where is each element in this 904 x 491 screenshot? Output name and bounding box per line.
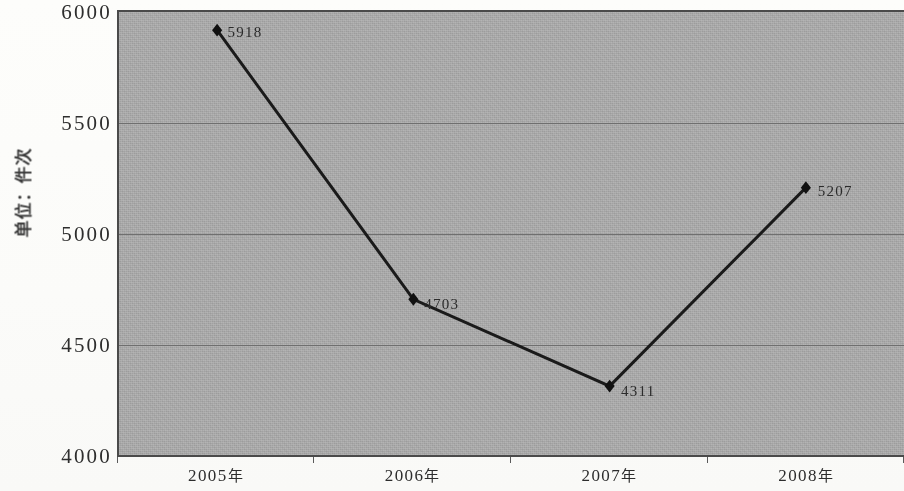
x-axis-tick-labels: 2005年2006年2007年2008年 (117, 464, 904, 491)
data-point-label: 5918 (227, 24, 262, 41)
data-point-label: 4311 (621, 383, 656, 400)
x-tick-label: 2007年 (582, 464, 637, 486)
x-tick-label: 2006年 (385, 464, 440, 486)
y-tick-label: 4000 (40, 446, 112, 467)
y-tick-label: 4500 (40, 335, 112, 356)
data-point-label: 5207 (818, 183, 853, 200)
series-line (119, 12, 904, 455)
plot-area: 5918470343115207 (117, 10, 904, 457)
y-axis-tick-labels: 6000 5500 5000 4500 4000 (36, 0, 112, 491)
x-tick-mark (510, 457, 511, 463)
x-tick-mark (313, 457, 314, 463)
y-tick-label: 5500 (40, 113, 112, 134)
y-tick-label: 5000 (40, 224, 112, 245)
data-point-label: 4703 (424, 295, 459, 312)
x-tick-label: 2005年 (188, 464, 243, 486)
x-tick-mark (707, 457, 708, 463)
y-tick-label: 6000 (40, 2, 112, 23)
x-tick-mark (117, 457, 118, 463)
line-chart: 单位：件次 6000 5500 5000 4500 4000 591847034… (0, 0, 904, 491)
x-tick-label: 2008年 (778, 464, 833, 486)
y-axis-title: 单位：件次 (10, 93, 35, 293)
